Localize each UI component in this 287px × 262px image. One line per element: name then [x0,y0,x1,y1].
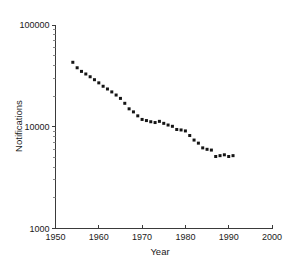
x-tick-label: 1960 [89,232,109,242]
data-point [115,94,118,97]
data-point [76,66,79,69]
data-point [175,128,178,131]
data-point [149,120,152,123]
data-point [223,153,226,156]
data-point [102,85,105,88]
x-tick-label: 1990 [219,232,239,242]
data-point [158,120,161,123]
data-point [84,72,87,75]
data-point-group [71,61,234,158]
data-point [214,155,217,158]
data-point [136,114,139,117]
data-point [162,122,165,125]
data-point [128,107,131,110]
data-point [97,81,100,84]
data-point [184,129,187,132]
x-axis-title: Year [150,246,169,257]
data-point [227,155,230,158]
y-axis-title: Notifications [13,100,24,152]
data-point [167,124,170,127]
data-point [132,110,135,113]
y-tick-label: 10000 [24,122,49,132]
data-point [219,154,222,157]
y-tick-label: 100000 [19,20,49,30]
data-point [206,148,209,151]
data-point [154,121,157,124]
data-point [123,102,126,105]
data-point [80,70,83,73]
data-point [171,125,174,128]
data-point [193,139,196,142]
data-point [188,134,191,137]
data-point [119,97,122,100]
data-point [141,118,144,121]
x-tick-label: 1970 [132,232,152,242]
x-tick-label: 2000 [262,232,282,242]
y-axis-ticks [52,25,56,229]
x-tick-label: 1950 [45,232,65,242]
x-axis-tick-labels: 195019601970198019902000 [45,232,282,242]
data-point [145,119,148,122]
data-point [210,149,213,152]
scatter-plot-svg: 100010000100000 195019601970198019902000… [0,0,287,262]
data-point [232,154,235,157]
data-point [110,90,113,93]
chart-figure: 100010000100000 195019601970198019902000… [0,0,287,262]
data-point [89,75,92,78]
data-point [71,61,74,64]
data-point [93,78,96,81]
data-point [197,142,200,145]
data-point [106,87,109,90]
x-axis-ticks [56,225,273,229]
data-point [180,128,183,131]
x-tick-label: 1980 [175,232,195,242]
data-point [201,146,204,149]
